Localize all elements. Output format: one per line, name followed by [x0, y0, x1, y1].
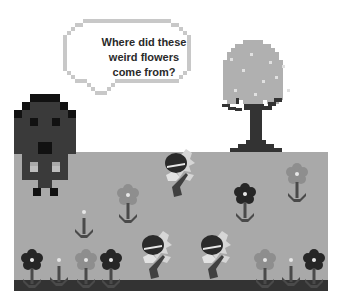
piranha-plant [201, 231, 231, 279]
piranha-plant [165, 149, 195, 197]
piranha-plant [142, 231, 172, 279]
piranha-plants [0, 0, 342, 303]
